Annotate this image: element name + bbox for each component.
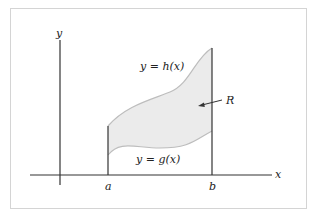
bound-label-a: a	[105, 180, 112, 193]
x-axis-label: x	[275, 168, 282, 181]
y-axis-label: y	[55, 27, 63, 40]
lower-curve-label: y = g(x)	[135, 153, 180, 166]
upper-curve-label: y = h(x)	[139, 60, 184, 73]
bound-label-b: b	[209, 180, 216, 193]
region-between-curves-diagram: y x a b R y = h(x) y = g(x)	[0, 0, 313, 215]
region-label-r: R	[225, 94, 234, 107]
